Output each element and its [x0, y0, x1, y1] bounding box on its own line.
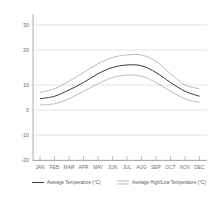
ytick-label-minus10: -10	[21, 132, 29, 138]
xtick-label-jan: JAN	[35, 165, 45, 170]
xtick-label-aug: AUG	[136, 165, 147, 170]
legend: Average Temperature (°C) Average High/Lo…	[32, 180, 206, 185]
xtick-label-mar: MAR	[64, 165, 75, 170]
legend-label-average: Average Temperature (°C)	[47, 180, 101, 185]
xtick-label-dec: DEC	[194, 165, 205, 170]
temperature-chart: 30 20 10 0 -10 -20 JAN FEB MAR APR MAY J…	[0, 0, 219, 200]
ytick-label-minus20: -20	[21, 157, 29, 163]
ytick-label-0: 0	[26, 107, 29, 113]
xtick-label-nov: NOV	[180, 165, 191, 170]
ytick-label-30: 30	[23, 22, 29, 28]
xtick-label-feb: FEB	[50, 165, 60, 170]
legend-label-highlow: Average High/Low Temperature (°C)	[132, 180, 206, 185]
x-axis-tick-labels: JAN FEB MAR APR MAY JUN JUL AUG SEP OCT …	[35, 165, 205, 170]
ytick-label-20: 20	[23, 47, 29, 53]
xtick-label-sep: SEP	[151, 165, 161, 170]
chart-canvas: 30 20 10 0 -10 -20 JAN FEB MAR APR MAY J…	[0, 0, 219, 200]
gridlines	[33, 25, 207, 160]
xtick-label-jul: JUL	[123, 165, 132, 170]
xtick-label-may: MAY	[93, 165, 104, 170]
xtick-label-apr: APR	[78, 165, 89, 170]
series-line-average-high	[40, 54, 200, 92]
ytick-label-10: 10	[23, 82, 29, 88]
y-axis-tick-labels: 30 20 10 0 -10 -20	[21, 22, 29, 163]
xtick-label-jun: JUN	[108, 165, 118, 170]
xtick-label-oct: OCT	[165, 165, 175, 170]
series-line-average-low	[40, 75, 200, 105]
data-series-group	[40, 54, 200, 105]
